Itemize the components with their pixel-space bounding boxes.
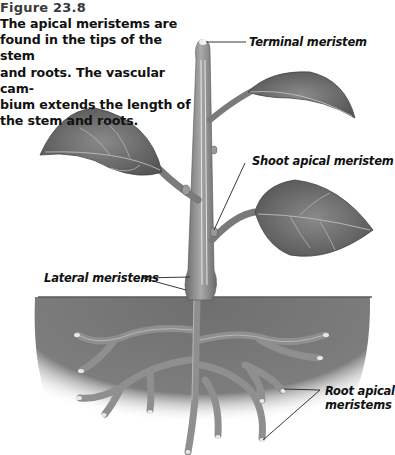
label-root-apical-meristems-line2: meristems bbox=[325, 398, 392, 412]
figure-caption: Figure 23.8 The apical meristems are fou… bbox=[0, 0, 200, 129]
caption-line: bium extends the length of bbox=[0, 97, 200, 113]
caption-line: the stem and roots. bbox=[0, 113, 200, 129]
figure-number: Figure 23.8 bbox=[0, 0, 200, 16]
label-terminal-meristem: Terminal meristem bbox=[249, 35, 367, 49]
label-root-apical-meristems-line1: Root apical bbox=[325, 384, 395, 398]
caption-line: and roots. The vascular cam- bbox=[0, 65, 200, 97]
soil bbox=[35, 297, 372, 455]
caption-line: The apical meristems are bbox=[0, 16, 200, 32]
label-shoot-apical-meristem: Shoot apical meristem bbox=[252, 154, 394, 168]
label-lateral-meristems: Lateral meristems bbox=[44, 271, 159, 285]
caption-line: found in the tips of the stem bbox=[0, 32, 200, 64]
terminal-bud bbox=[199, 39, 207, 45]
